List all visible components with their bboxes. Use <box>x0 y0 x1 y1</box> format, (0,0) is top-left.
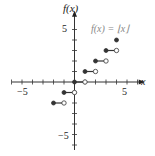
chart-title: f(x) = ⌊x⌋ <box>91 23 129 34</box>
closed-endpoint <box>73 80 77 84</box>
x-tick-label-5: 5 <box>122 86 127 97</box>
open-endpoint <box>93 69 97 73</box>
x-axis-label: x <box>141 76 145 87</box>
closed-endpoint <box>104 49 108 53</box>
chart-canvas <box>0 0 155 156</box>
closed-endpoint <box>83 70 87 74</box>
open-endpoint <box>114 48 118 52</box>
y-tick-label-5: 5 <box>62 23 67 34</box>
closed-endpoint <box>62 91 66 95</box>
closed-point <box>115 38 119 42</box>
open-endpoint <box>104 59 108 63</box>
x-tick-label-neg5: −5 <box>17 86 28 97</box>
y-axis-label: f(x) <box>63 2 78 14</box>
closed-endpoint <box>94 59 98 63</box>
closed-endpoint <box>52 101 56 105</box>
open-endpoint <box>83 80 87 84</box>
open-endpoint <box>72 90 76 94</box>
y-tick-label-neg5: −5 <box>58 130 69 141</box>
open-endpoint <box>62 101 66 105</box>
